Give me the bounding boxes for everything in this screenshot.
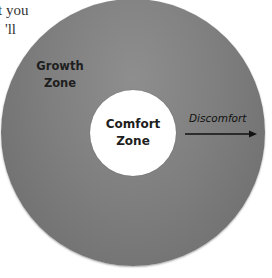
comfort-zone-label: Comfort Zone (98, 116, 168, 150)
growth-zone-label-line-2: Zone (30, 75, 90, 92)
comfort-zone-label-line-2: Zone (98, 133, 168, 150)
growth-zone-label: Growth Zone (30, 58, 90, 92)
growth-zone-label-line-1: Growth (30, 58, 90, 75)
discomfort-label: Discomfort (189, 112, 246, 124)
comfort-zone-label-line-1: Comfort (98, 116, 168, 133)
cropped-body-text-line-1: t you (0, 3, 28, 18)
cropped-body-text-line-2: 'll (5, 22, 16, 37)
right-arrow-icon (185, 130, 257, 138)
diagram-canvas: t you 'll Growth Zone Comfort Zone Disco… (0, 0, 272, 278)
